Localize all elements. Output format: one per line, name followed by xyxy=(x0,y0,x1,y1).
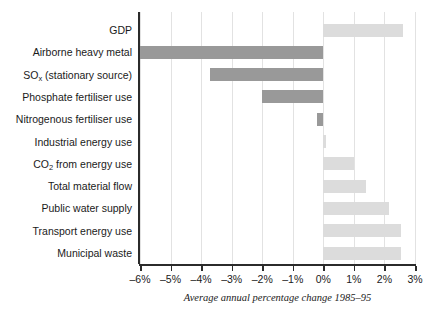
category-label: SOx (stationary source) xyxy=(0,69,132,83)
bar xyxy=(323,224,401,237)
x-axis-tick-label: 3% xyxy=(395,273,435,285)
bar xyxy=(210,68,323,81)
x-axis-tick-mark xyxy=(171,266,173,271)
category-label: CO2 from energy use xyxy=(0,158,132,172)
category-label: Phosphate fertiliser use xyxy=(0,91,132,103)
x-axis-tick-mark xyxy=(293,266,295,271)
x-axis-tick-mark xyxy=(384,266,386,271)
bar-chart-figure: GDPAirborne heavy metalSOx (stationary s… xyxy=(0,0,440,318)
category-label: Transport energy use xyxy=(0,225,132,237)
bar xyxy=(323,157,354,170)
x-axis-tick-mark xyxy=(140,266,142,271)
gridline-3% xyxy=(415,12,416,264)
x-axis-tick-mark xyxy=(232,266,234,271)
category-label: Industrial energy use xyxy=(0,136,132,148)
category-label: Municipal waste xyxy=(0,247,132,259)
bar xyxy=(262,90,323,103)
bar xyxy=(323,247,401,260)
plot-area xyxy=(140,12,415,264)
x-axis-tick-mark xyxy=(415,266,417,271)
x-axis-title: Average annual percentage change 1985–95 xyxy=(140,292,415,303)
category-label: GDP xyxy=(0,24,132,36)
bar xyxy=(323,180,366,193)
category-axis-labels: GDPAirborne heavy metalSOx (stationary s… xyxy=(0,14,136,264)
x-axis-tick-mark xyxy=(262,266,264,271)
bar xyxy=(317,113,323,126)
bar xyxy=(323,202,389,215)
bar xyxy=(323,135,326,148)
x-axis-tick-mark xyxy=(201,266,203,271)
x-axis-line xyxy=(139,264,416,266)
bar xyxy=(140,46,323,59)
x-axis-tick-mark xyxy=(323,266,325,271)
x-axis-tick-mark xyxy=(354,266,356,271)
y-axis-line xyxy=(138,12,140,264)
category-label: Airborne heavy metal xyxy=(0,46,132,58)
category-label: Nitrogenous fertiliser use xyxy=(0,113,132,125)
category-label: Total material flow xyxy=(0,180,132,192)
category-label: Public water supply xyxy=(0,202,132,214)
bar xyxy=(323,24,402,37)
